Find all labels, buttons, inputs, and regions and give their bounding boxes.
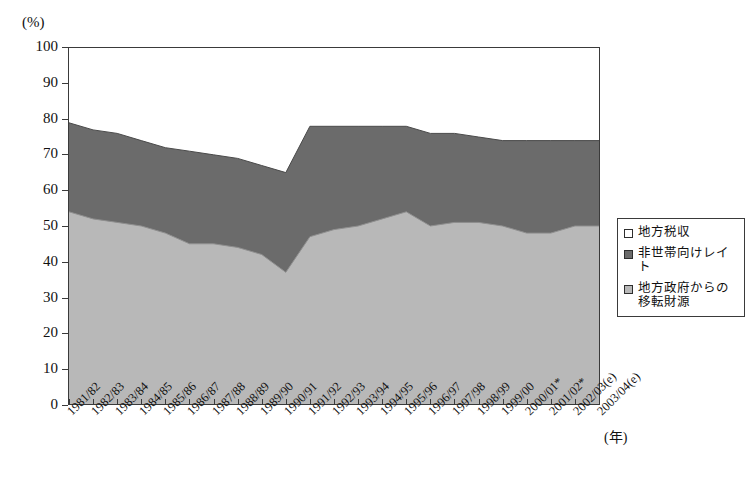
x-axis-title: (年) <box>604 426 627 446</box>
plot-area <box>68 47 600 405</box>
y-tick-label-10: 10 <box>14 361 58 376</box>
y-tick-label-50: 50 <box>14 218 58 233</box>
y-tick-label-20: 20 <box>14 325 58 340</box>
y-tick-label-40: 40 <box>14 254 58 269</box>
legend-swatch-icon-1 <box>624 250 633 259</box>
legend-swatch-icon-2 <box>624 285 633 294</box>
y-tick-label-90: 90 <box>14 75 58 90</box>
legend-item-2: 地方政府からの 移転財源 <box>624 281 739 309</box>
legend-label-1: 非世帯向けレイト <box>638 246 739 274</box>
y-tick-label-70: 70 <box>14 146 58 161</box>
chart-figure: (%) 1009080706050403020100 (年) 1981/8219… <box>0 0 755 499</box>
y-tick-label-80: 80 <box>14 111 58 126</box>
x-axis-tick-labels: (年) 1981/821982/831983/841984/851985/861… <box>0 405 755 499</box>
legend-swatch-icon-0 <box>624 229 633 238</box>
y-axis-unit-label: (%) <box>22 14 45 31</box>
legend-item-1: 非世帯向けレイト <box>624 246 739 274</box>
y-tick-label-100: 100 <box>14 39 58 54</box>
y-tick-label-60: 60 <box>14 182 58 197</box>
y-tick-label-30: 30 <box>14 290 58 305</box>
chart-legend: 地方税収 非世帯向けレイト 地方政府からの 移転財源 <box>617 218 745 317</box>
area-series-light-gray <box>69 212 599 404</box>
legend-label-2: 地方政府からの 移転財源 <box>638 281 729 309</box>
legend-item-0: 地方税収 <box>624 225 739 239</box>
stacked-area-plot <box>69 48 599 404</box>
legend-label-0: 地方税収 <box>638 225 690 239</box>
